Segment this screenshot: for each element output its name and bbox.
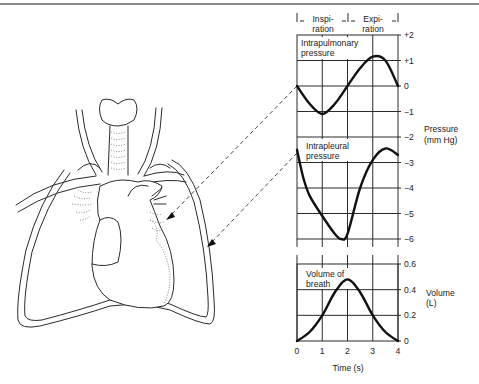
pressure-axis-label-line2: (mm Hg)	[424, 135, 458, 145]
time-tick: 0	[295, 346, 300, 356]
pressure-tick: +1	[404, 56, 414, 66]
intrapleural-label-line2: pressure	[306, 151, 340, 161]
volume-label-line2: breath	[306, 279, 331, 289]
pressure-tick: +2	[404, 30, 414, 40]
time-tick-labels: 01234	[295, 346, 401, 356]
volume-tick: 0.6	[404, 259, 416, 269]
heart	[92, 180, 174, 308]
pressure-tick: −5	[404, 209, 414, 219]
intrapulmonary-label-line1: Intrapulmonary	[301, 38, 359, 48]
phase-expiration-line2: ration	[362, 24, 384, 34]
phase-expiration-line1: Expi-	[363, 14, 383, 24]
pressure-tick: −4	[404, 183, 414, 193]
arrow-head-icon	[166, 212, 175, 220]
phase-inspiration-line2: ration	[312, 24, 334, 34]
volume-tick: 0.4	[404, 285, 416, 295]
time-tick: 1	[320, 346, 325, 356]
pointer-arrows	[166, 86, 297, 247]
intrapulmonary-label-line2: pressure	[301, 48, 335, 58]
respiration-figure: Inspi- ration Expi- ration Intrapulmonar…	[0, 0, 479, 384]
volume-axis-label-line2: (L)	[426, 298, 437, 308]
volume-axis-label-line1: Volume	[426, 288, 455, 298]
pressure-tick: −2	[404, 132, 414, 142]
pressure-tick: −1	[404, 107, 414, 117]
time-tick: 2	[345, 346, 350, 356]
lung-illustration	[16, 86, 297, 327]
time-tick: 3	[370, 346, 375, 356]
phase-inspiration-line1: Inspi-	[312, 14, 333, 24]
volume-label-line1: Volume of	[306, 269, 345, 279]
volume-tick: 0	[404, 336, 409, 346]
trachea	[100, 99, 138, 175]
time-tick: 4	[396, 346, 401, 356]
intrapleural-label-line1: Intrapleural	[306, 141, 349, 151]
pressure-tick: −3	[404, 158, 414, 168]
phase-header: Inspi- ration Expi- ration	[297, 13, 398, 34]
time-axis-label: Time (s)	[332, 363, 363, 373]
pressure-axis-label-line1: Pressure	[424, 124, 459, 134]
pressure-tick-labels: +2+10−1−2−3−4−5−6	[404, 30, 414, 244]
volume-tick: 0.2	[404, 310, 416, 320]
pressure-tick: −6	[404, 234, 414, 244]
pressure-tick: 0	[404, 81, 409, 91]
volume-tick-labels: 0.60.40.20	[404, 259, 416, 346]
